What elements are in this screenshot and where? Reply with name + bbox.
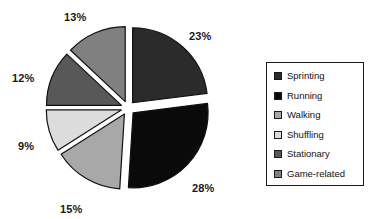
legend: SprintingRunningWalkingShufflingStationa… [266, 62, 364, 186]
legend-label-sprinting: Sprinting [287, 71, 325, 81]
legend-label-running: Running [287, 91, 322, 101]
legend-swatch-stationary [274, 150, 282, 158]
legend-item-shuffling[interactable]: Shuffling [274, 128, 362, 142]
legend-label-walking: Walking [287, 110, 320, 120]
legend-item-game-related[interactable]: Game-related [274, 167, 362, 181]
legend-items: SprintingRunningWalkingShufflingStationa… [274, 69, 362, 181]
pie-data-label-sprinting: 23% [189, 30, 211, 42]
legend-label-shuffling: Shuffling [287, 130, 324, 140]
legend-swatch-shuffling [274, 131, 282, 139]
legend-label-stationary: Stationary [287, 149, 330, 159]
pie-slice-running[interactable] [128, 103, 208, 187]
pie-data-label-walking: 15% [60, 203, 82, 215]
pie-plot-area: 23%28%15%9%12%13% [0, 0, 260, 219]
pie-data-label-running: 28% [192, 182, 214, 194]
pie-chart-figure: 23%28%15%9%12%13% SprintingRunningWalkin… [0, 0, 378, 219]
legend-swatch-sprinting [274, 72, 282, 80]
legend-item-running[interactable]: Running [274, 89, 362, 103]
pie-data-label-stationary: 12% [12, 72, 34, 84]
pie-data-label-shuffling: 9% [18, 140, 34, 152]
legend-item-sprinting[interactable]: Sprinting [274, 69, 362, 83]
legend-label-game-related: Game-related [287, 169, 345, 179]
legend-swatch-running [274, 92, 282, 100]
legend-swatch-game-related [274, 170, 282, 178]
pie-svg [0, 0, 260, 219]
pie-data-label-game-related: 13% [64, 11, 86, 23]
pie-slice-group [46, 27, 208, 189]
legend-item-walking[interactable]: Walking [274, 108, 362, 122]
legend-item-stationary[interactable]: Stationary [274, 147, 362, 161]
legend-swatch-walking [274, 111, 282, 119]
